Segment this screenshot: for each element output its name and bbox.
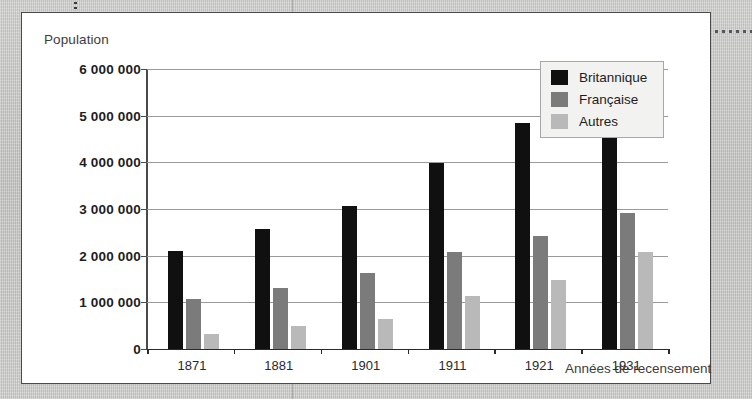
legend-item-francaise: Française [551,92,647,107]
figure-frame: Population 6 000 0005 000 0004 000 0003 … [21,12,711,384]
y-tick-label: 2 000 000 [79,248,141,263]
legend-swatch-britannique-icon [551,70,568,85]
x-tick-label-1871: 1871 [178,358,207,373]
bar-group-1901 [342,69,396,349]
x-tick-mark [408,349,410,354]
y-tick-label: 4 000 000 [79,155,141,170]
legend-item-autres: Autres [551,114,647,129]
y-axis-tick-labels: 6 000 0005 000 0004 000 0003 000 0002 00… [29,69,141,349]
right-dotted-rule-icon [708,30,752,33]
x-tick-mark [581,349,583,354]
x-axis-title: Années de recensement [565,361,711,376]
bar-francaise-1881 [273,288,288,349]
y-tick-label: 0 [133,342,141,357]
bar-autres-1911 [465,296,480,349]
x-tick-mark [321,349,323,354]
y-axis-title: Population [44,32,109,47]
bar-britannique-1871 [168,251,183,349]
x-tick-label-1911: 1911 [439,358,467,373]
bar-group-1871 [168,69,222,349]
legend-item-britannique: Britannique [551,70,647,85]
bar-group-1911 [429,69,483,349]
bar-britannique-1921 [515,123,530,349]
bar-francaise-1871 [186,299,201,349]
y-tick-label: 1 000 000 [79,295,141,310]
bar-britannique-1911 [429,163,444,349]
chart-legend: BritanniqueFrançaiseAutres [540,61,664,138]
bar-chart: Population 6 000 0005 000 0004 000 0003 … [22,13,710,383]
bar-francaise-1921 [533,236,548,349]
bar-autres-1881 [291,326,306,349]
bar-autres-1931 [638,252,653,349]
legend-label-autres: Autres [579,114,618,129]
x-tick-label-1901: 1901 [351,358,380,373]
x-tick-mark [147,349,149,354]
bar-group-1881 [255,69,309,349]
bar-francaise-1901 [360,273,375,349]
legend-label-francaise: Française [579,92,638,107]
bar-autres-1921 [551,280,566,349]
scanned-page: Population 6 000 0005 000 0004 000 0003 … [0,0,752,399]
legend-label-britannique: Britannique [579,70,647,85]
x-tick-label-1881: 1881 [264,358,293,373]
legend-swatch-autres-icon [551,114,568,129]
y-tick-label: 3 000 000 [79,202,141,217]
bar-britannique-1881 [255,229,270,349]
x-tick-label-1921: 1921 [525,358,554,373]
x-tick-mark [668,349,670,354]
x-tick-mark [234,349,236,354]
x-tick-mark [494,349,496,354]
bar-autres-1901 [378,319,393,349]
legend-swatch-francaise-icon [551,92,568,107]
bar-britannique-1901 [342,206,357,349]
y-tick-label: 5 000 000 [79,108,141,123]
bar-autres-1871 [204,334,219,349]
bar-francaise-1931 [620,213,635,349]
bar-francaise-1911 [447,252,462,349]
y-tick-label: 6 000 000 [79,62,141,77]
